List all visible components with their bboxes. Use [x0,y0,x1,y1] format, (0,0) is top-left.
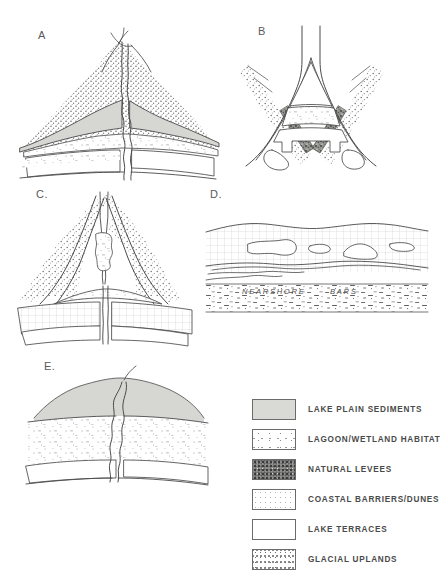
panel-d-label-nearshore: NEARSHORE [242,287,305,296]
legend-label-lake-terraces: LAKE TERRACES [308,525,387,534]
legend-item-natural-levees: NATURAL LEVEES [252,456,434,482]
legend-item-lake-plain-sediments: LAKE PLAIN SEDIMENTS [252,396,434,422]
panel-d-artwork [206,223,428,312]
panel-letter-e: E. [44,360,55,372]
panel-letter-a: A [38,29,46,41]
legend-item-glacial-uplands: GLACIAL UPLANDS [252,546,434,572]
legend-swatch-lake-terraces [252,519,296,540]
panel-e-artwork [26,366,208,485]
legend-swatch-glacial-uplands [252,549,296,570]
legend-swatch-lagoon-wetland-habitat [252,429,296,450]
legend-swatch-natural-levees [252,459,296,480]
legend-swatch-coastal-barriers-dunes [252,489,296,510]
legend-item-lake-terraces: LAKE TERRACES [252,516,434,542]
legend-item-lagoon-wetland-habitat: LAGOON/WETLAND HABITAT [252,426,434,452]
legend: LAKE PLAIN SEDIMENTS LAGOON/WETLAND HABI… [252,396,434,576]
legend-label-coastal-barriers-dunes: COASTAL BARRIERS/DUNES [308,495,439,504]
panel-c-artwork [18,192,192,346]
panel-d-label-bars: BARS [330,287,357,296]
legend-label-lagoon-wetland-habitat: LAGOON/WETLAND HABITAT [308,435,441,444]
panel-letter-d: D. [210,188,222,200]
legend-label-glacial-uplands: GLACIAL UPLANDS [308,555,397,564]
panel-letter-b: B [258,25,266,37]
legend-swatch-lake-plain-sediments [252,399,296,420]
legend-label-natural-levees: NATURAL LEVEES [308,465,392,474]
legend-item-coastal-barriers-dunes: COASTAL BARRIERS/DUNES [252,486,434,512]
legend-label-lake-plain-sediments: LAKE PLAIN SEDIMENTS [308,405,422,414]
panel-a-artwork [18,28,219,180]
panel-b-artwork [240,26,384,170]
panel-letter-c: C. [36,188,48,200]
